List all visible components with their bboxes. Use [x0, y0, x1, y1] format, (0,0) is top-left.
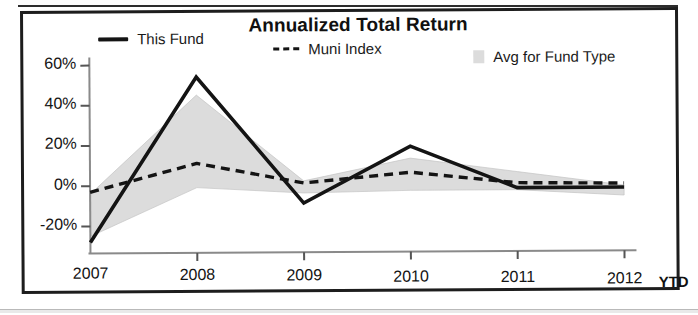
page-top-edge [18, 0, 678, 7]
x-axis-tick-2009: 2009 [269, 266, 339, 284]
x-axis-tick-2011: 2011 [483, 268, 553, 286]
x-axis-tick-2012: 2012 [590, 269, 660, 287]
chart-canvas [23, 10, 683, 297]
y-axis-tick-4: -20% [15, 216, 77, 234]
x-axis-tick-2010: 2010 [376, 267, 446, 285]
y-axis-tick-3: 0% [15, 175, 77, 193]
chart-plot-area: Annualized Total Return This Fund Muni I… [23, 10, 683, 297]
chart-frame: Annualized Total Return This Fund Muni I… [20, 7, 680, 294]
avg-fund-type-band [90, 93, 625, 237]
y-axis-tick-1: 40% [15, 95, 77, 113]
x-axis-tick-2007: 2007 [56, 264, 126, 282]
y-axis-tick-0: 60% [14, 55, 76, 73]
page-bottom-edge [0, 309, 698, 313]
x-axis-tick-2008: 2008 [162, 265, 232, 283]
x-axis-ytd-label: YTD [659, 273, 689, 290]
y-axis-tick-2: 20% [15, 135, 77, 153]
